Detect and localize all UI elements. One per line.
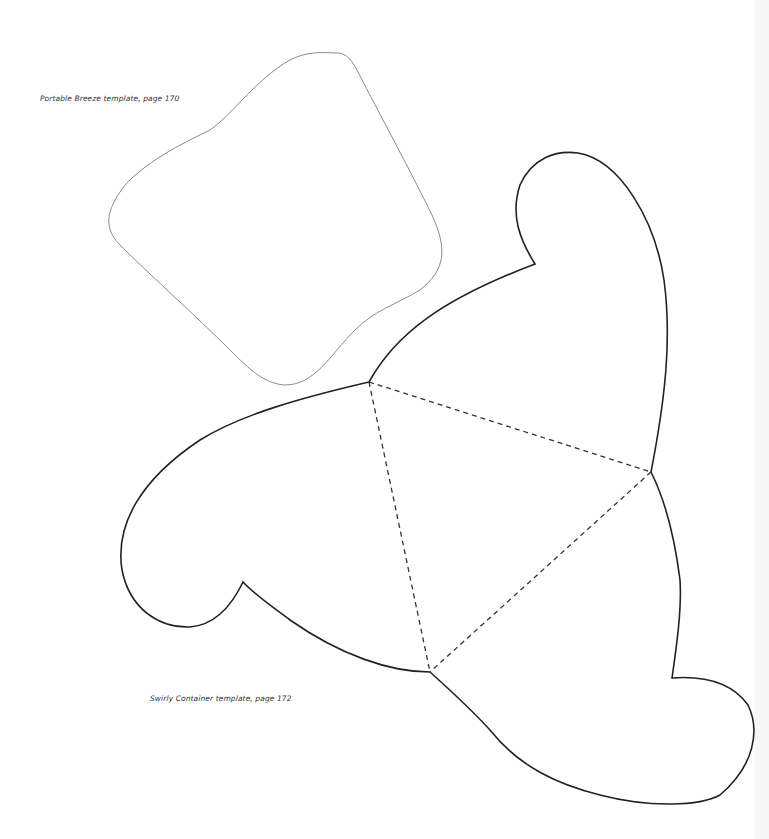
template-page: Portable Breeze template, page 170 Swirl… [0,0,769,839]
swirly-container-outline [121,152,754,804]
swirly-container-fold-lines [369,382,651,672]
fold-line-left [369,382,430,672]
fold-line-top [369,382,651,472]
templates-drawing [0,0,769,839]
portable-breeze-outline [109,53,442,385]
fold-line-right [430,472,651,672]
